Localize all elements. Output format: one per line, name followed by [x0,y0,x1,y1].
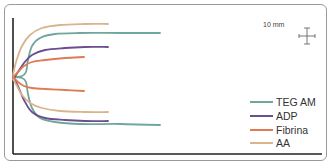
curve-adp-lower [13,76,108,121]
legend-label: TEG AM [276,96,316,108]
legend-label: ADP [276,110,298,122]
scale-cross-icon [299,28,315,44]
scale-label: 10 mm [263,21,285,28]
legend-label: Fibrina [276,124,308,136]
curve-teg-am-upper [13,33,160,77]
legend: TEG AM ADP Fibrina AA [250,96,316,149]
legend-item-aa: AA [250,137,290,149]
legend-item-teg-am: TEG AM [250,96,316,108]
teg-chart: 10 mm TEG AM ADP Fibrina AA [0,0,335,168]
curve-teg-am-lower [13,77,160,125]
tracing-curves [13,24,160,125]
legend-label: AA [276,137,290,149]
legend-item-adp: ADP [250,110,298,122]
legend-item-fibrina: Fibrina [250,124,308,136]
